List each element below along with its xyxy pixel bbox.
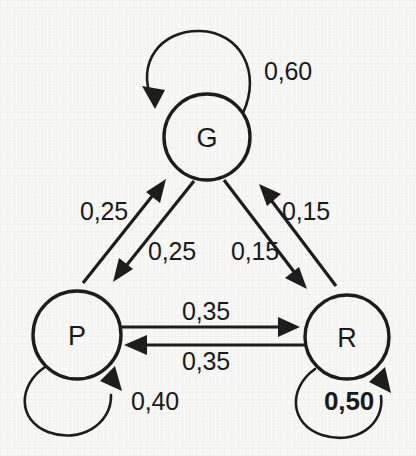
edge-weight-p-to-r: 0,35 [182,297,230,325]
node-p[interactable]: P [33,291,121,379]
edge-weight-r-to-p: 0,35 [182,347,230,375]
edge-g-to-g [142,31,250,113]
state-diagram: G P R 0,60 0,40 0,50 0,25 0,25 0,15 0,15… [0,0,416,456]
edge-weight-g-to-r: 0,15 [231,237,279,265]
edge-weight-r-to-g: 0,15 [282,197,330,225]
arrowhead-g-to-r [285,267,307,289]
edge-p-to-p [25,366,122,436]
edge-weight-r-to-r: 0,50 [324,386,374,416]
arrowhead-p-to-r [278,317,300,337]
diagram-canvas: G P R 0,60 0,40 0,50 0,25 0,25 0,15 0,15… [0,0,416,456]
node-r[interactable]: R [305,295,389,379]
edge-weight-p-to-g: 0,25 [80,197,128,225]
edge-weight-g-to-p: 0,25 [148,237,196,265]
arrowhead-r-to-g [259,184,281,206]
node-r-label: R [337,323,357,353]
node-g[interactable]: G [164,94,250,180]
self-loop-g-path [147,31,250,113]
arrowhead-g-to-g [142,86,165,109]
edge-weight-p-to-p: 0,40 [131,387,179,415]
edge-weight-g-to-g: 0,60 [264,57,312,85]
node-p-label: P [68,321,86,351]
arrowhead-r-to-p [124,335,147,355]
node-g-label: G [196,123,217,153]
